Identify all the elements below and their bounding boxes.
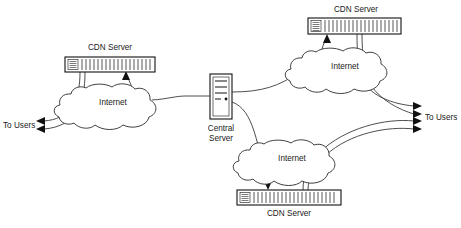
cloud-bottom-label: Internet — [278, 154, 306, 163]
diagram-canvas: Internet Internet Internet CDN Server — [0, 0, 461, 228]
arrow-left-users-1 — [36, 117, 45, 125]
central-server-label-line2: Server — [209, 134, 233, 143]
cdn-server-bottom-label: CDN Server — [267, 209, 311, 218]
central-server[interactable]: Central Server — [208, 74, 235, 143]
link-central-to-left-cloud — [152, 96, 210, 100]
arrow-right-users-4 — [413, 125, 422, 133]
switch-ports — [254, 192, 334, 203]
server-power-led — [225, 98, 228, 101]
cloud-left: Internet — [54, 84, 156, 130]
cloud-left-label: Internet — [99, 98, 127, 107]
cloud-bottom: Internet — [233, 140, 335, 186]
arrow-right-users-1 — [413, 102, 422, 110]
cdn-server-top-right[interactable]: CDN Server — [308, 5, 401, 34]
to-users-left-label: To Users — [3, 121, 35, 130]
network-switch-icon — [237, 190, 341, 205]
arrow-left-users-2 — [36, 125, 45, 133]
arrow-right-users-3 — [413, 117, 422, 125]
cdn-server-bottom[interactable]: CDN Server — [237, 190, 341, 218]
central-server-label-line1: Central — [208, 124, 235, 133]
cloud-top-right: Internet — [285, 48, 387, 94]
network-switch-icon — [308, 18, 401, 34]
cdn-server-top-right-label: CDN Server — [334, 5, 378, 14]
cdn-topology-diagram: Internet Internet Internet CDN Server — [0, 0, 461, 228]
to-users-right-label: To Users — [425, 113, 457, 122]
cdn-server-left[interactable]: CDN Server — [65, 43, 155, 72]
cdn-server-left-label: CDN Server — [88, 43, 132, 52]
arrow-right-users-2 — [413, 110, 422, 118]
cloud-top-right-label: Internet — [331, 62, 359, 71]
arrow-up-topright-cdn — [323, 34, 331, 43]
